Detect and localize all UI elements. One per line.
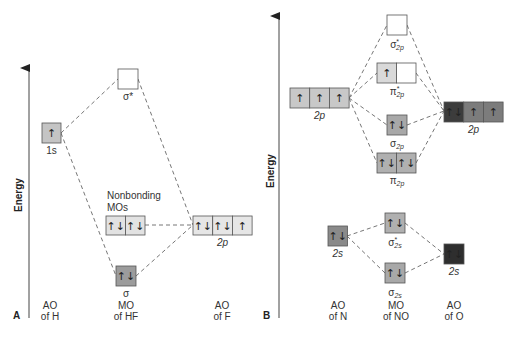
orbital-label: σ*2p: [390, 38, 404, 52]
correlation-lines-a: [61, 79, 193, 276]
electron-arrow: ↑↓: [397, 157, 415, 170]
orbital-label: 2p: [467, 124, 480, 135]
orbital-label: π*2p: [390, 85, 405, 99]
electron-arrow: ↑↓: [386, 267, 404, 280]
electron-arrow: ↑: [489, 106, 498, 119]
orbital-label: π2p: [390, 175, 405, 188]
column-label-ao-f-line2: of F: [213, 311, 230, 322]
electron-arrow: ↑↓: [386, 217, 404, 230]
orbital-label: 2s: [331, 248, 343, 259]
orbital-sigma-2s: ↑↓ σ2s: [385, 263, 405, 299]
orbital-n-2p: ↑ ↑ ↑ 2p: [290, 88, 349, 121]
electron-arrow: ↑: [335, 92, 344, 105]
orbital-label: σ*: [123, 91, 133, 102]
electron-arrow: ↑: [469, 106, 478, 119]
electron-arrow: ↑↓: [117, 270, 135, 283]
electron-arrow: ↑: [238, 220, 247, 233]
orbital-pi-2p: ↑↓ ↑↓ π2p: [377, 153, 416, 188]
orbital-sigma-star: σ*: [118, 69, 138, 102]
electron-arrow: ↑↓: [378, 157, 396, 170]
column-label-ao-f-line1: AO: [215, 300, 230, 311]
nonbonding-label-line1: Nonbonding: [107, 190, 161, 201]
column-label-mo-no-line1: MO: [388, 300, 404, 311]
orbital-sigma-star-2p: σ*2p: [387, 15, 407, 52]
column-label-ao-n-line2: of N: [329, 311, 347, 322]
orbital-label: σ: [123, 288, 130, 299]
orbital-label: σ2p: [390, 138, 404, 151]
orbital-sigma-2p: ↑↓ σ2p: [387, 115, 407, 151]
electron-arrow: ↑↓: [107, 220, 125, 233]
panel-letter-b: B: [263, 310, 270, 321]
nonbonding-label-line2: MOs: [107, 202, 128, 213]
orbital-label: σ*2s: [388, 236, 402, 249]
electron-arrow: ↑↓: [388, 119, 406, 132]
electron-arrow: ↑: [295, 92, 304, 105]
orbital-label: 2p: [313, 110, 326, 121]
electron-arrow: ↑↓: [329, 230, 347, 243]
orbital-label: 2p: [216, 237, 229, 248]
orbital-label: σ2s: [388, 287, 402, 299]
orbital-h-1s: ↑ 1s: [42, 123, 61, 156]
electron-arrow: ↑: [47, 127, 56, 140]
orbital-nonbonding: Nonbonding MOs ↑↓ ↑↓: [106, 190, 161, 235]
orbital-o-2p: ↑↓ ↑ ↑ 2p: [444, 102, 503, 135]
electron-arrow: ↑↓: [194, 220, 212, 233]
electron-arrow: ↑↓: [126, 220, 144, 233]
electron-arrow: ↑↓: [213, 220, 231, 233]
column-label-ao-o-line1: AO: [447, 300, 462, 311]
panel-b: Energy B σ*2p ↑ π*2p: [263, 15, 503, 322]
panel-a: Energy A ↑ 1s σ* Nonbonding MOs ↑↓: [13, 68, 252, 322]
energy-axis-label-a: Energy: [13, 178, 24, 212]
orbital-pi-star-2p: ↑ π*2p: [377, 63, 416, 99]
energy-axis-label-b: Energy: [265, 154, 276, 188]
column-label-ao-h-line1: AO: [43, 300, 58, 311]
panel-letter-a: A: [13, 310, 20, 321]
orbital-f-2p: ↑↓ ↑↓ ↑ 2p: [193, 216, 252, 248]
orbital-label: 1s: [46, 145, 57, 156]
orbital-sigma: ↑↓ σ: [116, 266, 136, 299]
electron-arrow: ↑↓: [445, 106, 463, 119]
orbital-o-2s: ↑↓ 2s: [444, 244, 464, 277]
electron-arrow: ↑↓: [445, 248, 463, 261]
orbital-n-2s: ↑↓ 2s: [328, 226, 348, 259]
column-label-mo-no-line2: of NO: [383, 311, 409, 322]
column-label-ao-n-line1: AO: [331, 300, 346, 311]
orbital-label: 2s: [448, 266, 460, 277]
column-label-ao-h-line2: of H: [41, 311, 59, 322]
column-label-mo-hf-line1: MO: [118, 300, 134, 311]
electron-arrow: ↑: [315, 92, 324, 105]
orbital-sigma-star-2s: ↑↓ σ*2s: [385, 213, 405, 249]
column-label-ao-o-line2: of O: [445, 311, 464, 322]
column-label-mo-hf-line2: of HF: [114, 311, 138, 322]
mo-diagram: Energy A ↑ 1s σ* Nonbonding MOs ↑↓: [0, 0, 512, 343]
electron-arrow: ↑: [382, 67, 391, 80]
